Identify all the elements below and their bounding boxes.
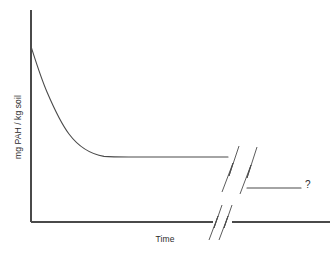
unknown-fate-question-mark: ? xyxy=(305,179,311,190)
x-axis-label: Time xyxy=(120,234,210,244)
data-trace-break-mark xyxy=(222,146,257,194)
pah-soil-decay-figure: mg PAH / kg soil Time ? xyxy=(0,0,330,253)
plot-canvas xyxy=(0,0,330,253)
y-axis-label: mg PAH / kg soil xyxy=(13,79,23,175)
pah-decay-curve xyxy=(32,48,229,157)
